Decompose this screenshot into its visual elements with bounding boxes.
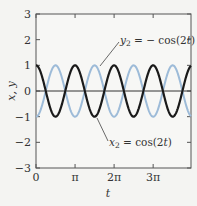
- y-tick-label: −2: [15, 136, 31, 149]
- x-tick-label: π: [71, 171, 78, 184]
- x-tick-label: 2π: [107, 171, 121, 184]
- y-tick-label: 0: [24, 85, 31, 98]
- y-axis-label: x, y: [5, 81, 18, 101]
- y-tick-label: 1: [24, 59, 31, 72]
- y-tick-label: 2: [24, 34, 31, 47]
- x-tick-label: 0: [33, 171, 40, 184]
- y-tick-label: 3: [24, 8, 31, 21]
- y-tick-label: −3: [15, 162, 31, 175]
- y-tick-label: −1: [15, 111, 31, 124]
- x-axis-label: t: [106, 187, 111, 200]
- annotation-y2: y2 = − cos(2t): [119, 34, 195, 48]
- x-tick-label: 3π: [146, 171, 160, 184]
- chart: 3210−1−2−3 0π2π3π t x, y y2 = − cos(2t) …: [0, 0, 197, 206]
